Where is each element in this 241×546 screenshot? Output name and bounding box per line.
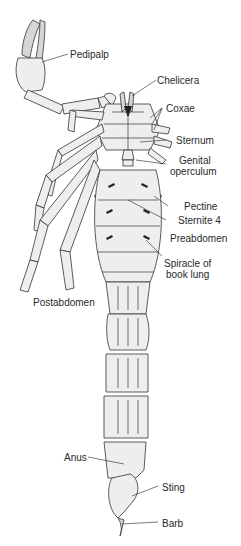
label-preabdomen: Preabdomen <box>170 233 227 244</box>
postabdomen-drawing <box>104 282 150 478</box>
preabdomen-drawing <box>95 170 162 282</box>
label-spiracle-line2: book lung <box>166 269 209 280</box>
label-chelicera: Chelicera <box>157 75 199 86</box>
label-postabdomen: Postabdomen <box>33 297 95 308</box>
label-genital-operculum-line1: Genital <box>179 155 211 166</box>
label-spiracle-line1: Spiracle of <box>164 258 211 269</box>
scorpion-diagram: Pedipalp Chelicera Coxae Sternum Genital… <box>0 0 241 546</box>
label-sternite-4: Sternite 4 <box>178 215 221 226</box>
label-anus: Anus <box>64 452 87 463</box>
label-coxae: Coxae <box>166 103 195 114</box>
label-genital-operculum-line2: operculum <box>170 166 217 177</box>
label-pectine: Pectine <box>184 201 217 212</box>
sting-drawing <box>109 474 138 536</box>
label-barb: Barb <box>162 518 183 529</box>
pedipalp-drawing <box>16 20 110 114</box>
label-pedipalp: Pedipalp <box>70 49 109 60</box>
label-sting: Sting <box>162 482 185 493</box>
label-sternum: Sternum <box>176 135 214 146</box>
